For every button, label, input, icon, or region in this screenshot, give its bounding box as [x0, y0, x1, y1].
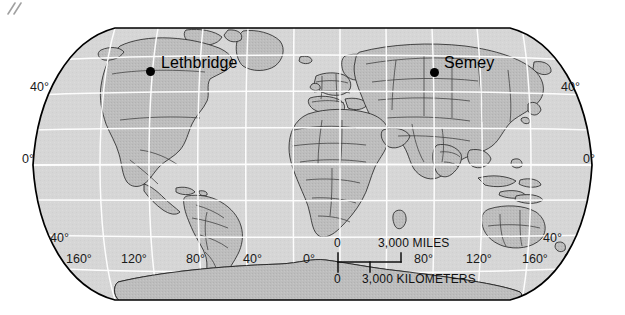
longitude-label-160w: 160° — [66, 252, 92, 266]
scale-miles-zero-label: 0 — [334, 236, 341, 250]
world-map-figure: Lethbridge Semey 40° 0° 40° 40° 0° 40° 1… — [0, 0, 625, 315]
city-label-semey: Semey — [444, 54, 494, 72]
equator-line — [33, 164, 593, 165]
scale-kilometers-label: 3,000 KILOMETERS — [362, 272, 476, 286]
latitude-label-right-40s: 40° — [543, 231, 562, 245]
longitude-label-160e: 160° — [522, 252, 548, 266]
latitude-label-left-0: 0° — [22, 152, 34, 166]
latitude-label-right-40n: 40° — [561, 80, 580, 94]
scale-miles-label: 3,000 MILES — [378, 236, 450, 250]
longitude-label-120e: 120° — [466, 252, 492, 266]
latitude-label-right-0: 0° — [583, 152, 595, 166]
longitude-label-120w: 120° — [121, 252, 147, 266]
city-label-lethbridge: Lethbridge — [161, 54, 238, 72]
latitude-label-left-40s: 40° — [50, 231, 69, 245]
longitude-label-40w: 40° — [243, 252, 262, 266]
world-map-canvas — [0, 0, 625, 315]
map-body — [0, 0, 625, 315]
city-marker-lethbridge[interactable] — [146, 67, 155, 76]
latitude-label-left-40n: 40° — [30, 80, 49, 94]
longitude-label-80w: 80° — [186, 252, 205, 266]
scale-kilometers-zero-label: 0 — [334, 272, 341, 286]
longitude-label-0: 0° — [303, 252, 315, 266]
city-marker-semey[interactable] — [430, 68, 439, 77]
longitude-label-80e: 80° — [414, 252, 433, 266]
